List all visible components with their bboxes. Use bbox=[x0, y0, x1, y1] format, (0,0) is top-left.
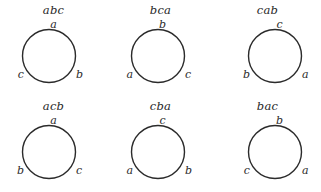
permutation-cell: cab c b a bbox=[214, 0, 321, 96]
permutation-diagram-grid: abc a c b bca b a c cab c b a bbox=[0, 0, 321, 192]
vertex-label-right: c bbox=[185, 69, 199, 80]
permutation-cell: cba c a b bbox=[107, 96, 214, 192]
permutation-cell: bac b c a bbox=[214, 96, 321, 192]
vertex-label-right: b bbox=[185, 165, 199, 176]
vertex-label-left: b bbox=[236, 69, 250, 80]
permutation-cell: bca b a c bbox=[107, 0, 214, 96]
circle-diagram: c a b bbox=[107, 96, 214, 192]
circle-diagram: a c b bbox=[0, 0, 107, 96]
circle-diagram: a b c bbox=[0, 96, 107, 192]
circle-diagram: b c a bbox=[214, 96, 321, 192]
vertex-label-top: a bbox=[0, 19, 107, 30]
vertex-label-left: a bbox=[119, 69, 133, 80]
permutation-cell: acb a b c bbox=[0, 96, 107, 192]
vertex-label-top: c bbox=[109, 115, 216, 126]
vertex-label-right: a bbox=[302, 165, 316, 176]
circle-diagram: b a c bbox=[107, 0, 214, 96]
vertex-label-right: c bbox=[76, 165, 90, 176]
vertex-label-left: c bbox=[10, 69, 24, 80]
vertex-label-right: a bbox=[302, 69, 316, 80]
vertex-label-left: a bbox=[119, 165, 133, 176]
circle-diagram: c b a bbox=[214, 0, 321, 96]
vertex-label-left: b bbox=[10, 165, 24, 176]
vertex-label-right: b bbox=[76, 69, 90, 80]
vertex-label-top: b bbox=[109, 19, 216, 30]
vertex-label-top: a bbox=[0, 115, 107, 126]
vertex-label-top: c bbox=[226, 19, 321, 30]
permutation-cell: abc a c b bbox=[0, 0, 107, 96]
vertex-label-top: b bbox=[226, 115, 321, 126]
vertex-label-left: c bbox=[236, 165, 250, 176]
